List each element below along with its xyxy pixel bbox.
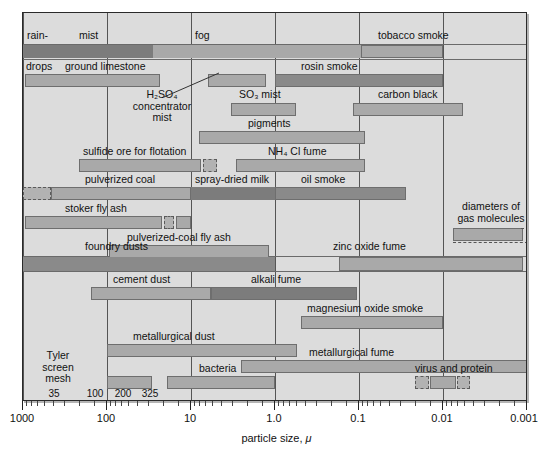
axis-tick-minor [221,401,222,406]
axis-tick-minor [446,401,447,406]
axis-tick-minor [473,401,474,406]
bar-virus-protein-seg2 [430,376,456,389]
bar-tobacco-smoke [361,45,443,58]
axis-label-1000: 1000 [10,412,34,424]
axis-label-100: 100 [97,412,115,424]
axis-tick-minor [380,401,381,406]
axis-tick-minor [53,401,54,406]
axis-tick-minor [137,401,138,406]
label-foundry-dusts: foundry dusts [85,241,148,252]
axis-tick-minor [128,401,129,406]
axis-tick-major [106,401,107,410]
label-carbon-black: carbon black [378,89,438,100]
bar-foundry-dusts [23,257,275,271]
gas-molecules-dashed-underline [453,242,526,243]
gridline-1 [275,13,276,400]
axis-tick-minor [296,401,297,406]
gas-molecules-dash-right [521,228,526,229]
label-h2so4-line2: concentrator [133,100,191,112]
axis-tick-minor [499,401,500,406]
label-magnesium-oxide-smoke: magnesium oxide smoke [307,303,423,314]
label-drops: drops [26,61,52,72]
label-rosin-smoke: rosin smoke [301,61,358,72]
axis-tick-minor [331,401,332,406]
bar-h2so4-mist [208,74,266,87]
bar-virus-protein-seg1 [415,376,429,389]
axis-tick-minor [64,401,65,406]
axis-tick-minor [346,401,347,406]
bar-so3-mist [231,103,296,116]
axis-tick-minor [212,401,213,406]
label-metallurgical-fume: metallurgical fume [309,347,394,358]
label-ground-limestone: ground limestone [65,61,146,72]
row-separator [23,271,526,272]
label-gas-molecules: diameters of gas molecules [451,201,526,224]
axis-tick-minor [389,401,390,406]
gridline-0.01 [443,13,444,400]
bar-sulfide-ore [79,159,201,172]
axis-tick-minor [362,401,363,406]
axis-label-10: 10 [184,412,196,424]
axis-tick-major [274,401,275,410]
x-axis: 1000 100 10 1.0 0.1 0.01 0.001 [22,401,527,417]
mesh-value-325: 325 [142,388,159,399]
bar-sulfide-ore-tail [203,159,217,172]
axis-label-0.01: 0.01 [431,412,452,424]
axis-tick-minor [163,401,164,406]
axis-tick-minor [110,401,111,406]
label-pigments: pigments [248,118,291,129]
mesh-value-35: 35 [48,388,59,399]
gas-mol-line1: diameters of [462,200,520,212]
label-h2so4-mist: H₂SO₄ concentrator mist [119,89,205,124]
axis-tick-minor [430,401,431,406]
label-spray-dried-milk: spray-dried milk [195,174,269,185]
tyler-line3: mesh [45,372,71,384]
axis-tick-major [190,401,191,410]
label-pulverized-coal: pulverized coal [85,174,155,185]
gas-mol-line2: gas molecules [457,212,524,224]
axis-tick-minor [373,401,374,406]
bar-oil-smoke [275,187,406,200]
axis-title-mu: μ [306,432,312,444]
bar-cement-dust [91,287,211,300]
nh4cl-text: NH₄ Cl fume [268,145,327,157]
axis-tick-major [22,401,23,410]
label-bacteria: bacteria [199,363,236,374]
axis-tick-minor [121,401,122,406]
label-rain: rain- [27,30,48,41]
bar-pulverized-coal-head [23,187,51,200]
label-oil-smoke: oil smoke [301,174,345,185]
label-stoker-fly-ash: stoker fly ash [65,203,127,214]
label-cement-dust: cement dust [113,274,170,285]
mesh-value-100: 100 [87,388,104,399]
label-fog: fog [195,30,210,41]
bar-rosin-smoke [275,74,443,87]
particle-size-chart: rain- mist fog tobacco smoke drops groun… [0,0,553,461]
bar-metallurgical-dust [107,344,297,357]
bar-pulverized-coal [51,187,191,200]
axis-tick-major [442,401,443,410]
label-virus-and-protein: virus and protein [415,363,493,374]
axis-tick-minor [415,401,416,406]
axis-tick-minor [115,401,116,406]
axis-label-1: 1.0 [266,412,281,424]
label-zinc-oxide-fume: zinc oxide fume [333,241,406,252]
axis-tick-minor [283,401,284,406]
bar-nh4cl-fume [236,159,365,172]
axis-tick-minor [514,401,515,406]
axis-tick-minor [262,401,263,406]
label-alkali-fume: alkali fume [251,274,301,285]
axis-label-0.1: 0.1 [350,412,365,424]
bar-bacteria [167,376,275,389]
bar-gas-molecules [453,228,523,241]
axis-tick-minor [457,401,458,406]
bar-alkali-fume [211,287,357,300]
bar-spray-dried-milk [191,187,275,200]
bar-stoker-fly-ash-tail2 [176,216,191,229]
axis-tick-minor [178,401,179,406]
gridline-1000 [23,13,24,400]
label-tyler-screen-mesh: Tyler screen mesh [29,350,87,385]
axis-tick-minor [199,401,200,406]
label-h2so4-line3: mist [152,111,171,123]
axis-tick-minor [44,401,45,406]
